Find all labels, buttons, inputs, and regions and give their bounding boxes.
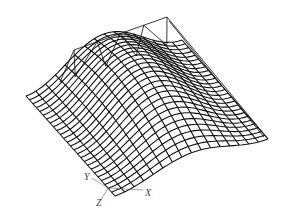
y-axis-label: Y [84,171,91,182]
axis-line [108,188,143,190]
axis-line [101,188,108,200]
mesh-line-v [91,107,245,169]
z-axis-label: Z [96,197,102,208]
shell-mesh [26,32,268,196]
shell-wireframe-figure: X Y Z [0,0,285,215]
mesh-line-v [112,135,265,192]
x-axis-label: X [144,187,152,198]
